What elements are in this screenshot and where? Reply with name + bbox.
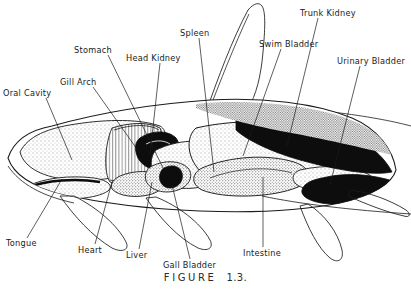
label-gill-arch: Gill Arch	[60, 78, 97, 86]
label-liver: Liver	[126, 251, 147, 259]
figure-caption-number: 1.3.	[226, 272, 247, 283]
label-oral-cavity: Oral Cavity	[3, 89, 51, 97]
label-intestine: Intestine	[243, 249, 281, 257]
label-swim-bladder: Swim Bladder	[259, 40, 318, 48]
label-spleen: Spleen	[180, 29, 209, 37]
label-gall-bladder: Gall Bladder	[163, 261, 216, 269]
fish-anatomy-illustration	[0, 0, 411, 292]
label-trunk-kidney: Trunk Kidney	[300, 9, 356, 17]
figure-caption-word: FIGURE	[164, 272, 217, 283]
label-head-kidney: Head Kidney	[126, 54, 181, 62]
label-urinary-bladder: Urinary Bladder	[337, 57, 405, 65]
figure-caption: FIGURE1.3.	[0, 272, 411, 283]
label-stomach: Stomach	[74, 46, 112, 54]
label-tongue: Tongue	[6, 239, 37, 247]
label-heart: Heart	[78, 246, 102, 254]
figure-container: Oral CavityGill ArchStomachHead KidneySp…	[0, 0, 411, 292]
gall-bladder-mass	[159, 166, 182, 188]
